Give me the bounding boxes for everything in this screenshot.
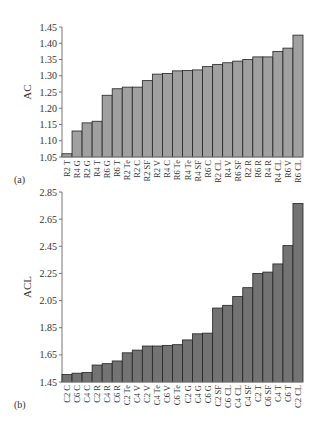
- y-tick-label: 2.65: [40, 214, 58, 225]
- x-category-label: C2 V: [142, 384, 152, 403]
- x-category-label: R4 V: [223, 159, 233, 178]
- x-category-label: C4 G: [193, 385, 203, 403]
- bar: [82, 373, 92, 383]
- bar: [223, 305, 233, 382]
- y-tick-label: 1.20: [40, 103, 58, 114]
- x-category-label: C2 T: [253, 384, 263, 402]
- bar: [142, 346, 152, 382]
- bar: [293, 35, 303, 157]
- bar: [162, 73, 172, 157]
- x-category-label: R6 SF: [233, 160, 243, 182]
- x-category-label: C4 C: [82, 385, 92, 403]
- y-tick-label: 2.45: [40, 241, 58, 252]
- x-category-label: C6 Te: [172, 385, 182, 405]
- x-category-label: C2 CL: [293, 385, 303, 408]
- y-tick-label: 1.85: [40, 322, 58, 333]
- bar: [193, 70, 203, 157]
- x-category-label: C4 Te: [152, 385, 162, 405]
- bar: [92, 121, 102, 157]
- bar: [283, 246, 293, 382]
- bar: [203, 67, 213, 157]
- panel-label: (b): [14, 399, 26, 411]
- y-tick-label: 2.85: [40, 187, 58, 198]
- chart-b-acl: 1.451.651.852.052.252.452.652.85ACLC2 CC…: [0, 185, 316, 433]
- bar: [102, 364, 112, 382]
- x-category-label: C2 G: [183, 385, 193, 403]
- y-tick-label: 1.25: [40, 87, 58, 98]
- x-category-label: R4 Te: [183, 160, 193, 180]
- x-category-label: R6 CL: [293, 160, 303, 183]
- bar: [72, 131, 82, 157]
- bar: [82, 123, 92, 157]
- bar: [223, 63, 233, 157]
- x-category-label: C2 Te: [122, 385, 132, 405]
- x-category-label: R6 T: [112, 159, 122, 177]
- bar: [273, 51, 283, 157]
- bar: [193, 334, 203, 382]
- bar: [203, 333, 213, 382]
- x-category-label: C2 SF: [213, 385, 223, 407]
- bar: [293, 204, 303, 382]
- bar: [132, 350, 142, 382]
- bar: [183, 71, 193, 157]
- x-category-label: C4 V: [132, 384, 142, 403]
- bar: [152, 74, 162, 157]
- bar: [243, 60, 253, 158]
- bar: [263, 272, 273, 382]
- y-axis-label: ACL: [21, 276, 33, 298]
- bar: [253, 273, 263, 382]
- bar: [183, 340, 193, 382]
- x-category-label: C6 T: [283, 384, 293, 402]
- x-category-label: R4 C: [162, 160, 172, 178]
- bar: [62, 154, 72, 157]
- bar: [62, 375, 72, 382]
- x-category-label: R6 R: [253, 160, 263, 178]
- y-tick-label: 1.40: [40, 38, 58, 49]
- bar: [283, 48, 293, 157]
- bar: [72, 373, 82, 382]
- x-category-label: R2 CL: [213, 160, 223, 183]
- bar: [233, 61, 243, 157]
- y-tick-label: 1.45: [40, 377, 58, 388]
- bar: [122, 353, 132, 382]
- bar: [112, 361, 122, 382]
- x-category-label: R6 Te: [172, 160, 182, 180]
- chart-a-ac: 1.051.101.151.201.251.301.351.401.45ACR2…: [0, 0, 316, 190]
- x-category-label: R6 V: [283, 159, 293, 178]
- x-category-label: C6 R: [112, 385, 122, 403]
- x-category-label: R2 C: [132, 160, 142, 178]
- chart-a-canvas: 1.051.101.151.201.251.301.351.401.45ACR2…: [0, 0, 316, 190]
- x-category-label: R4 CL: [273, 160, 283, 183]
- bar: [122, 87, 132, 157]
- x-category-label: R2 V: [152, 159, 162, 178]
- bar: [142, 81, 152, 157]
- bar: [243, 288, 253, 382]
- bar: [263, 57, 273, 157]
- x-category-label: C6 G: [203, 385, 213, 403]
- x-category-label: C4 CL: [233, 385, 243, 408]
- x-category-label: C4 R: [102, 385, 112, 403]
- y-tick-label: 1.10: [40, 135, 58, 146]
- x-category-label: R2 T: [62, 159, 72, 177]
- x-category-label: R2 G: [82, 160, 92, 178]
- y-tick-label: 1.45: [40, 22, 58, 33]
- x-category-label: R4 T: [92, 159, 102, 177]
- bar: [213, 308, 223, 382]
- bar: [253, 57, 263, 157]
- x-category-label: C6 V: [162, 384, 172, 403]
- x-category-label: R6 G: [102, 160, 112, 178]
- x-category-label: C4 SF: [243, 385, 253, 407]
- bar: [273, 264, 283, 382]
- bar: [172, 345, 182, 382]
- y-tick-label: 1.30: [40, 70, 58, 81]
- x-category-label: R2 Te: [122, 160, 132, 180]
- x-category-label: C6 C: [72, 385, 82, 403]
- bar: [152, 346, 162, 382]
- chart-b-canvas: 1.451.651.852.052.252.452.652.85ACLC2 CC…: [0, 185, 316, 433]
- x-category-label: R2 SF: [142, 160, 152, 182]
- bar: [112, 89, 122, 157]
- y-tick-label: 1.65: [40, 349, 58, 360]
- y-tick-label: 1.15: [40, 119, 58, 130]
- x-category-label: C6 CL: [223, 385, 233, 408]
- x-category-label: R4 G: [72, 160, 82, 178]
